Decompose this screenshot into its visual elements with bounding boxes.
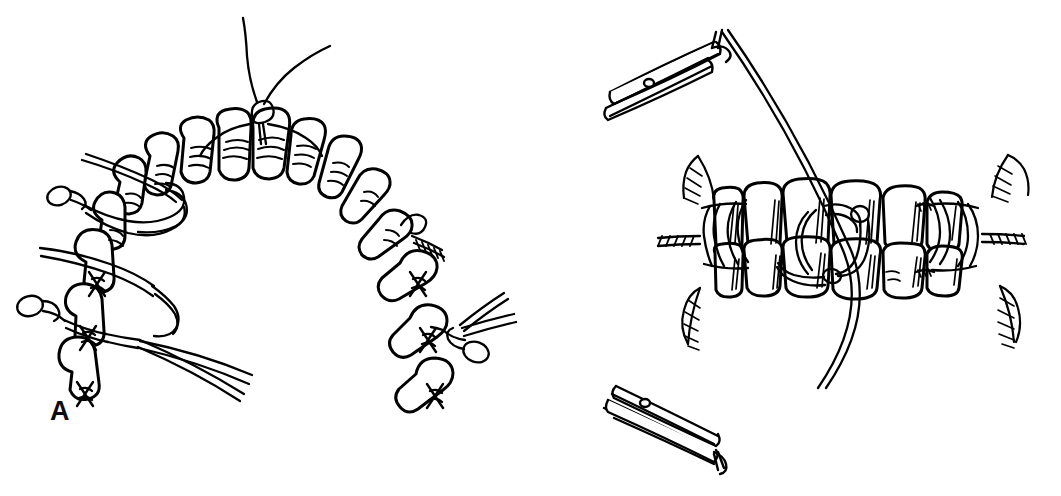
arch-teeth-group [59, 108, 453, 412]
figure-root: A [0, 0, 1061, 496]
panel-a-illustration [0, 0, 530, 496]
panel-b: B [530, 0, 1061, 496]
panel-label-a: A [50, 398, 70, 425]
left-molar-eyelet-wire [15, 293, 252, 401]
right-molar-eyelet-wire [431, 293, 516, 366]
panel-b-illustration [530, 0, 1061, 496]
needle-holder-upper [604, 30, 730, 120]
lower-teeth-group [714, 237, 962, 299]
panel-a: A [0, 0, 530, 496]
needle-holder-lower [604, 386, 726, 474]
